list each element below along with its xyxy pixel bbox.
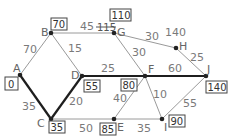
weight-B-G: 45 bbox=[80, 20, 94, 33]
distance-C: 35 bbox=[49, 121, 65, 133]
label-I: I bbox=[164, 121, 167, 134]
distance-F: 80 bbox=[121, 79, 137, 91]
weight-B-D: 15 bbox=[68, 42, 82, 55]
label-J: J bbox=[206, 63, 210, 76]
svg-text:35: 35 bbox=[51, 122, 64, 133]
svg-text:110: 110 bbox=[112, 10, 131, 21]
label-H: H bbox=[179, 40, 187, 53]
svg-text:80: 80 bbox=[123, 80, 136, 91]
distance-B: 70 bbox=[51, 18, 67, 30]
svg-text:90: 90 bbox=[171, 116, 184, 127]
weight-F-I: 10 bbox=[153, 88, 167, 101]
svg-text:85: 85 bbox=[102, 124, 115, 135]
distance-G: 110 bbox=[110, 9, 131, 21]
weight-A-B: 70 bbox=[23, 43, 37, 56]
weight-C-E: 50 bbox=[79, 122, 93, 135]
label-D: D bbox=[71, 69, 79, 82]
node-F bbox=[143, 74, 148, 79]
weight-F-J: 60 bbox=[168, 62, 182, 75]
distance-E: 85 bbox=[100, 123, 116, 135]
label-A: A bbox=[13, 62, 21, 75]
weight-H-J: 25 bbox=[190, 51, 204, 64]
weight-I-J: 55 bbox=[183, 97, 197, 110]
distance-D: 55 bbox=[84, 80, 100, 92]
weight-C-D: 20 bbox=[69, 95, 83, 108]
weight-E-I: 35 bbox=[137, 122, 151, 135]
weight-G-H: 30 bbox=[145, 30, 159, 43]
label-G: G bbox=[117, 26, 126, 39]
svg-text:140: 140 bbox=[208, 82, 227, 93]
weight-E-F: 40 bbox=[113, 92, 127, 105]
svg-text:140: 140 bbox=[165, 26, 186, 39]
distance-A: 0 bbox=[5, 77, 18, 90]
node-H bbox=[174, 46, 179, 51]
svg-text:55: 55 bbox=[86, 81, 99, 92]
distance-G-crossed: 115 bbox=[96, 22, 116, 33]
label-B: B bbox=[41, 26, 49, 39]
distance-J: 140 bbox=[206, 81, 227, 93]
label-C: C bbox=[37, 117, 45, 130]
weight-F-G: 30 bbox=[132, 46, 146, 59]
label-F: F bbox=[148, 63, 154, 76]
weight-A-C: 35 bbox=[22, 100, 36, 113]
label-E: E bbox=[117, 121, 124, 134]
node-B bbox=[49, 31, 54, 36]
svg-text:0: 0 bbox=[8, 79, 14, 90]
distance-I: 90 bbox=[169, 115, 185, 127]
weight-D-F: 25 bbox=[101, 62, 115, 75]
distance-H: 140 bbox=[165, 26, 186, 39]
node-E bbox=[112, 117, 117, 122]
graph-diagram: 70 35 15 45 20 50 25 40 35 30 10 60 30 2… bbox=[0, 0, 233, 138]
node-D bbox=[80, 74, 85, 79]
svg-text:70: 70 bbox=[53, 19, 66, 30]
